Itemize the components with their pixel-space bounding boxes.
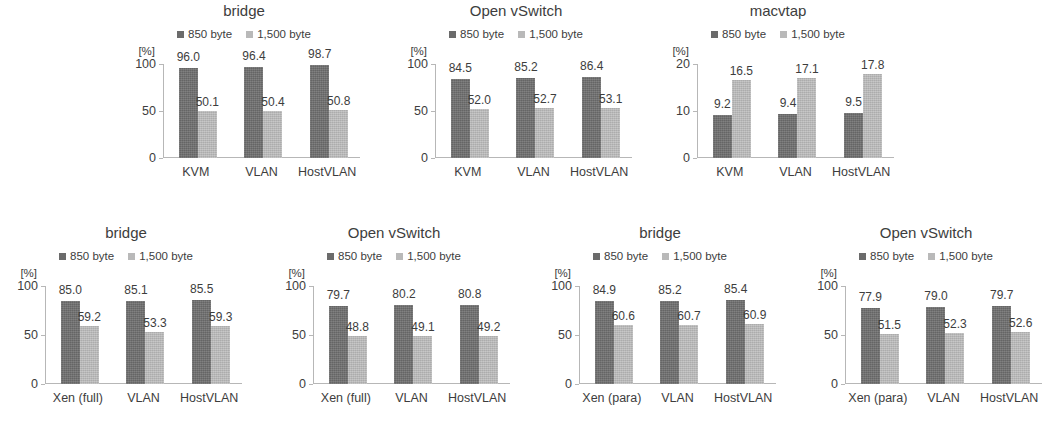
legend-label: 850 byte: [604, 251, 648, 263]
y-axis-tick-mark: [575, 384, 579, 385]
bar-value-label: 53.1: [599, 92, 622, 106]
legend-entry-850-byte: 850 byte: [859, 251, 914, 263]
plot-area: 05010079.748.8Xen (full)80.249.1VLAN80.8…: [313, 286, 510, 384]
legend-label: 850 byte: [722, 29, 766, 41]
bar-group: 79.052.3VLAN: [911, 286, 977, 384]
y-axis-tick-label: 0: [565, 377, 572, 391]
legend-label: 1,500 byte: [939, 251, 993, 263]
bar-value-label: 59.3: [209, 310, 232, 324]
y-axis-unit-label: [%]: [268, 267, 305, 279]
legend-label: 1,500 byte: [257, 29, 311, 41]
chart-legend: 850 byte1,500 byte: [118, 29, 370, 41]
bar-value-label: 85.4: [724, 282, 747, 296]
y-axis-tick-label: 50: [24, 328, 38, 342]
bar-value-label: 9.5: [845, 95, 862, 109]
bar-group: 84.552.0KVM: [435, 64, 501, 158]
legend-label: 850 byte: [70, 251, 114, 263]
bar-850-byte: 98.7: [310, 65, 329, 158]
y-axis-tick-label: 50: [824, 328, 838, 342]
legend-entry-850-byte: 850 byte: [177, 29, 232, 41]
legend-swatch-icon: [780, 31, 787, 38]
y-axis-tick-mark: [693, 158, 697, 159]
y-axis-unit-label: [%]: [118, 45, 155, 57]
x-axis-category-label: VLAN: [661, 391, 694, 405]
bar-group: 85.260.7VLAN: [645, 286, 711, 384]
y-axis-unit-label: [%]: [534, 267, 571, 279]
y-axis-tick-label: 50: [558, 328, 572, 342]
y-axis-unit-label: [%]: [390, 45, 427, 57]
chart-title: Open vSwitch: [800, 224, 1046, 241]
bar-value-label: 96.0: [177, 50, 200, 64]
bar-1500-byte: 53.3: [145, 332, 164, 384]
legend-label: 1,500 byte: [529, 29, 583, 41]
bar-value-label: 80.8: [458, 287, 481, 301]
bar-value-label: 50.4: [261, 95, 284, 109]
chart-legend: 850 byte1,500 byte: [800, 251, 1046, 263]
bar-1500-byte: 52.7: [535, 108, 554, 158]
x-axis-category-label: VLAN: [927, 391, 960, 405]
bar-1500-byte: 53.1: [601, 108, 620, 158]
chart-panel-kvm-ovs: Open vSwitch850 byte1,500 byte[%]0501008…: [390, 0, 642, 200]
bar-value-label: 79.0: [924, 289, 947, 303]
y-axis-tick-label: 10: [676, 104, 690, 118]
legend-swatch-icon: [177, 31, 184, 38]
chart-panel-kvm-macvtap: macvtap850 byte1,500 byte[%]010209.216.5…: [652, 0, 904, 200]
y-axis-tick-label: 0: [31, 377, 38, 391]
chart-panel-kvm-bridge: bridge850 byte1,500 byte[%]05010096.050.…: [118, 0, 370, 200]
bar-850-byte: 9.2: [713, 115, 732, 158]
bar-value-label: 84.5: [449, 61, 472, 75]
bar-group: 9.417.1VLAN: [763, 64, 829, 158]
bar-value-label: 50.8: [327, 94, 350, 108]
legend-entry-850-byte: 850 byte: [449, 29, 504, 41]
chart-legend: 850 byte1,500 byte: [268, 251, 520, 263]
x-axis-category-label: HostVLAN: [448, 391, 506, 405]
legend-entry-850-byte: 850 byte: [59, 251, 114, 263]
x-axis-category-label: VLAN: [395, 391, 428, 405]
legend-entry-850-byte: 850 byte: [711, 29, 766, 41]
y-axis-tick-label: 50: [142, 104, 156, 118]
bar-value-label: 9.2: [714, 97, 731, 111]
chart-legend: 850 byte1,500 byte: [0, 251, 252, 263]
legend-label: 850 byte: [870, 251, 914, 263]
bar-value-label: 9.4: [780, 96, 797, 110]
bar-1500-byte: 60.6: [614, 325, 633, 384]
x-axis-category-label: Xen (full): [321, 391, 371, 405]
chart-legend: 850 byte1,500 byte: [390, 29, 642, 41]
bar-1500-byte: 60.7: [679, 325, 698, 384]
bar-1500-byte: 51.5: [880, 334, 899, 384]
x-axis-category-label: HostVLAN: [570, 165, 628, 179]
y-axis-unit-label: [%]: [800, 267, 837, 279]
bar-group: 9.216.5KVM: [697, 64, 763, 158]
y-axis-tick-label: 100: [407, 57, 428, 71]
legend-swatch-icon: [449, 31, 456, 38]
bar-value-label: 49.1: [411, 320, 434, 334]
bar-value-label: 52.0: [468, 93, 491, 107]
plot-area: 05010085.059.2Xen (full)85.153.3VLAN85.5…: [45, 286, 242, 384]
y-axis-tick-label: 50: [292, 328, 306, 342]
legend-swatch-icon: [859, 253, 866, 260]
legend-swatch-icon: [59, 253, 66, 260]
bar-value-label: 16.5: [730, 64, 753, 78]
bar-group: 98.750.8HostVLAN: [294, 64, 360, 158]
bar-1500-byte: 50.4: [263, 111, 282, 158]
bar-group: 84.960.6Xen (para): [579, 286, 645, 384]
legend-swatch-icon: [593, 253, 600, 260]
x-axis-category-label: KVM: [716, 165, 743, 179]
chart-title: Open vSwitch: [268, 224, 520, 241]
bar-value-label: 51.5: [878, 318, 901, 332]
y-axis-tick-label: 100: [17, 279, 38, 293]
y-axis-tick-mark: [431, 158, 435, 159]
bar-1500-byte: 50.8: [329, 110, 348, 158]
bar-group: 77.951.5Xen (para): [845, 286, 911, 384]
bar-group: 79.752.6HostVLAN: [976, 286, 1042, 384]
legend-entry-1500-byte: 1,500 byte: [128, 251, 193, 263]
y-axis-tick-mark: [41, 384, 45, 385]
bar-group: 79.748.8Xen (full): [313, 286, 379, 384]
y-axis-tick-label: 0: [421, 151, 428, 165]
y-axis-tick-label: 0: [831, 377, 838, 391]
bar-1500-byte: 49.2: [479, 336, 498, 384]
x-axis-category-label: Xen (full): [53, 391, 103, 405]
bar-850-byte: 79.7: [329, 306, 348, 384]
bar-value-label: 84.9: [593, 283, 616, 297]
bar-value-label: 50.1: [196, 95, 219, 109]
